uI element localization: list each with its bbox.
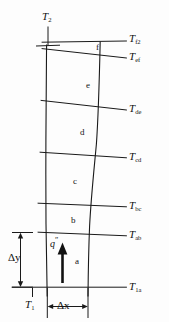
label-Tef: Tef: [129, 51, 140, 62]
label-delta-x: Δx: [57, 300, 70, 311]
cell-label-a: a: [75, 257, 79, 266]
label-Tde: Tde: [129, 103, 141, 114]
cell-label-f: f: [96, 43, 99, 52]
label-heat-flux: q″: [50, 237, 58, 249]
delta-y-arrowhead-down: [18, 281, 23, 287]
label-T1: T1: [25, 299, 34, 310]
label-delta-y: Δy: [8, 252, 21, 263]
nodal-network-drawing: [0, 0, 169, 322]
label-Tab: Tab: [129, 229, 141, 240]
delta-y-arrowhead-up: [18, 233, 23, 239]
label-Tf2: Tf2: [129, 33, 141, 44]
isotherm-line-de: [41, 100, 127, 110]
cell-label-e: e: [86, 81, 90, 90]
column-left-boundary: [46, 45, 47, 297]
delta-x-arrowhead-right: [82, 304, 88, 309]
cell-label-d: d: [80, 128, 85, 137]
figure-root: T2 Tf2 Tef Tde Tcd Tbc Tab T1a T1 f e d …: [0, 0, 169, 322]
label-T1a: T1a: [129, 281, 141, 292]
delta-x-arrowhead-left: [48, 304, 54, 309]
label-Tcd: Tcd: [129, 151, 141, 162]
label-T2: T2: [42, 11, 51, 22]
isotherm-line-bc: [38, 203, 127, 207]
label-Tbc: Tbc: [129, 200, 141, 211]
cell-label-c: c: [73, 177, 77, 186]
t2-tick-line: [36, 45, 60, 46]
isotherm-line-cd: [40, 152, 127, 158]
cell-label-b: b: [71, 216, 76, 225]
isotherm-line-f2: [42, 41, 127, 42]
isotherm-line-ef: [42, 49, 127, 58]
heat-flux-arrow: [58, 243, 68, 284]
isotherm-line-ab: [38, 232, 127, 236]
